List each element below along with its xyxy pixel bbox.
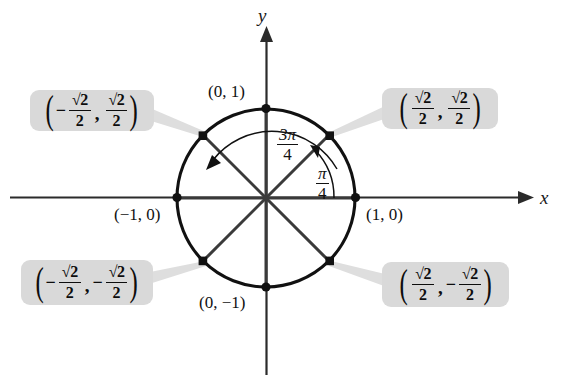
x-denominator: 2 <box>419 109 427 128</box>
diagram-canvas <box>0 0 564 386</box>
x-numerator: √2 <box>412 266 434 285</box>
x-fraction: √2 2 <box>69 92 91 129</box>
x-fraction: √2 2 <box>412 90 434 127</box>
y-fraction: √2 2 <box>459 266 481 303</box>
point-5pi-over-4 <box>199 257 208 266</box>
callout-bottom-left: ( − √2 2 , − √2 2 ) <box>21 260 153 305</box>
y-denominator: 2 <box>112 111 120 130</box>
point-label-right: (1, 0) <box>366 206 403 223</box>
angle-numerator: 3π <box>277 126 298 145</box>
y-numerator: √2 <box>106 264 128 283</box>
y-numerator: √2 <box>459 266 481 285</box>
spoke-7pi-over-4 <box>266 198 329 261</box>
x-denominator: 2 <box>66 283 74 302</box>
x-numerator: √2 <box>59 264 81 283</box>
connector-top-right <box>330 106 387 137</box>
angle-denominator: 4 <box>316 184 329 202</box>
point-label-bottom: (0, −1) <box>199 294 245 311</box>
connector-top-left <box>148 108 206 137</box>
x-numerator: √2 <box>412 90 434 109</box>
y-sign: − <box>446 274 458 295</box>
point-label-left: (−1, 0) <box>114 206 160 223</box>
open-paren: ( <box>36 266 44 299</box>
connector-bottom-left <box>149 261 206 284</box>
comma: , <box>92 103 103 125</box>
y-numerator: √2 <box>106 92 128 111</box>
point-0-1 <box>261 104 270 113</box>
angle-label-pi-over-4: π 4 <box>316 165 329 202</box>
close-paren: ) <box>130 94 138 127</box>
y-denominator: 2 <box>466 285 474 304</box>
coordinate-pair: ( √2 2 , √2 2 ) <box>398 90 483 127</box>
y-numerator: √2 <box>448 90 470 109</box>
y-axis-label: y <box>258 6 266 25</box>
spoke-5pi-over-4 <box>203 198 266 261</box>
point-1-0 <box>351 193 360 202</box>
y-fraction: √2 2 <box>448 90 470 127</box>
x-denominator: 2 <box>76 111 84 130</box>
comma: , <box>82 275 93 297</box>
callout-top-right: ( √2 2 , √2 2 ) <box>382 88 498 129</box>
callout-bottom-right: ( √2 2 , − √2 2 ) <box>382 262 509 307</box>
comma: , <box>435 277 446 299</box>
angle-label-3pi-over-4: 3π 4 <box>277 126 298 163</box>
y-fraction: √2 2 <box>106 92 128 129</box>
arc-3pi-over-4-arrowhead <box>206 155 221 170</box>
y-denominator: 2 <box>455 109 463 128</box>
coordinate-pair: ( − √2 2 , √2 2 ) <box>44 92 139 129</box>
point-label-top: (0, 1) <box>208 83 245 100</box>
coordinate-pair: ( √2 2 , − √2 2 ) <box>398 266 493 303</box>
y-axis-arrowhead <box>260 26 273 42</box>
close-paren: ) <box>130 266 138 299</box>
x-axis-arrowhead <box>518 191 534 204</box>
callout-top-left: ( − √2 2 , √2 2 ) <box>30 90 154 131</box>
close-paren: ) <box>483 268 491 301</box>
axes <box>10 26 534 375</box>
point-0-neg1 <box>261 282 270 291</box>
unit-circle-figure: y x (0, 1) (−1, 0) (1, 0) (0, −1) 3π 4 π… <box>0 0 564 386</box>
angle-denominator: 4 <box>277 145 298 163</box>
open-paren: ( <box>399 268 407 301</box>
y-denominator: 2 <box>113 283 121 302</box>
open-paren: ( <box>399 92 407 125</box>
x-axis-label: x <box>540 188 548 207</box>
y-sign: − <box>92 272 104 293</box>
y-fraction: √2 2 <box>106 264 128 301</box>
x-sign: − <box>56 100 68 121</box>
x-fraction: √2 2 <box>59 264 81 301</box>
point-neg1-0 <box>172 193 181 202</box>
point-3pi-over-4 <box>199 131 208 140</box>
x-sign: − <box>46 272 58 293</box>
close-paren: ) <box>473 92 481 125</box>
comma: , <box>435 101 446 123</box>
coordinate-pair: ( − √2 2 , − √2 2 ) <box>34 264 140 301</box>
point-pi-over-4 <box>325 131 334 140</box>
point-7pi-over-4 <box>325 257 334 266</box>
open-paren: ( <box>46 94 54 127</box>
x-fraction: √2 2 <box>412 266 434 303</box>
x-numerator: √2 <box>69 92 91 111</box>
angle-numerator: π <box>316 165 329 184</box>
x-denominator: 2 <box>419 285 427 304</box>
connector-bottom-right <box>329 261 385 286</box>
